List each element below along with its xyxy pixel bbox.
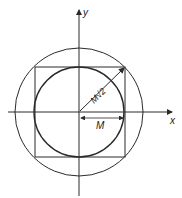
y-axis-label: y [82,7,89,18]
outer-radius-label: M√2 [88,86,107,105]
inner-radius-label: M [96,120,105,131]
x-axis-label: x [169,115,176,126]
geometry-diagram: y x M M√2 [0,0,182,198]
